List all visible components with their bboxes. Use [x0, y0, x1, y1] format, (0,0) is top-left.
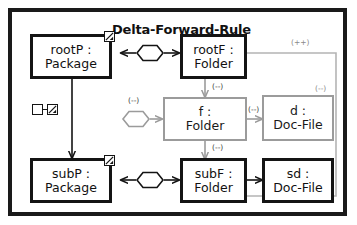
checked-box-icon-create: [47, 104, 58, 115]
node-rootF[interactable]: rootF : Folder: [180, 34, 247, 79]
node-d-name: d :: [290, 104, 306, 118]
node-d-type: Doc-File: [273, 118, 323, 132]
node-rootF-type: Folder: [194, 57, 233, 71]
edge-label-rootF-to-f: (--): [212, 82, 223, 91]
node-d[interactable]: d : Doc-File: [262, 95, 334, 141]
empty-box-icon: [32, 104, 43, 115]
node-rootP-name: rootP :: [51, 43, 92, 57]
node-rootP-type: Package: [45, 57, 97, 71]
node-sd[interactable]: sd : Doc-File: [262, 158, 334, 203]
node-sd-name: sd :: [287, 167, 310, 181]
node-f-type: Folder: [186, 119, 225, 133]
edge-label-f-to-d: (--): [248, 105, 259, 114]
node-rootP[interactable]: rootP : Package: [30, 34, 112, 79]
correspondence-hexagon-sub: [121, 173, 179, 188]
edge-label-f-to-subF: (--): [212, 143, 223, 152]
node-subF-name: subF :: [195, 167, 233, 181]
node-f[interactable]: f : Folder: [163, 97, 247, 141]
create-marker-rootP-subP: [32, 104, 58, 115]
node-subP-type: Package: [45, 181, 97, 195]
node-subP[interactable]: subP : Package: [30, 158, 112, 203]
node-subF-type: Folder: [194, 181, 233, 195]
diagram-canvas: Delta-Forward-Rule: [0, 0, 357, 225]
node-sd-type: Doc-File: [273, 181, 323, 195]
node-subF[interactable]: subF : Folder: [180, 158, 247, 203]
edge-label-d-top: (--): [315, 84, 326, 93]
node-subP-name: subP :: [52, 167, 90, 181]
node-rootF-name: rootF :: [193, 43, 233, 57]
correspondence-hexagon-f: [123, 112, 162, 127]
edge-label-root-to-right: (++): [291, 38, 309, 47]
edge-label-f-hexagon: (--): [128, 96, 139, 105]
checked-box-icon-subP: [104, 155, 115, 166]
checked-box-icon-rootP: [104, 31, 115, 42]
correspondence-hexagon-root: [121, 46, 179, 61]
node-f-name: f :: [199, 105, 212, 119]
